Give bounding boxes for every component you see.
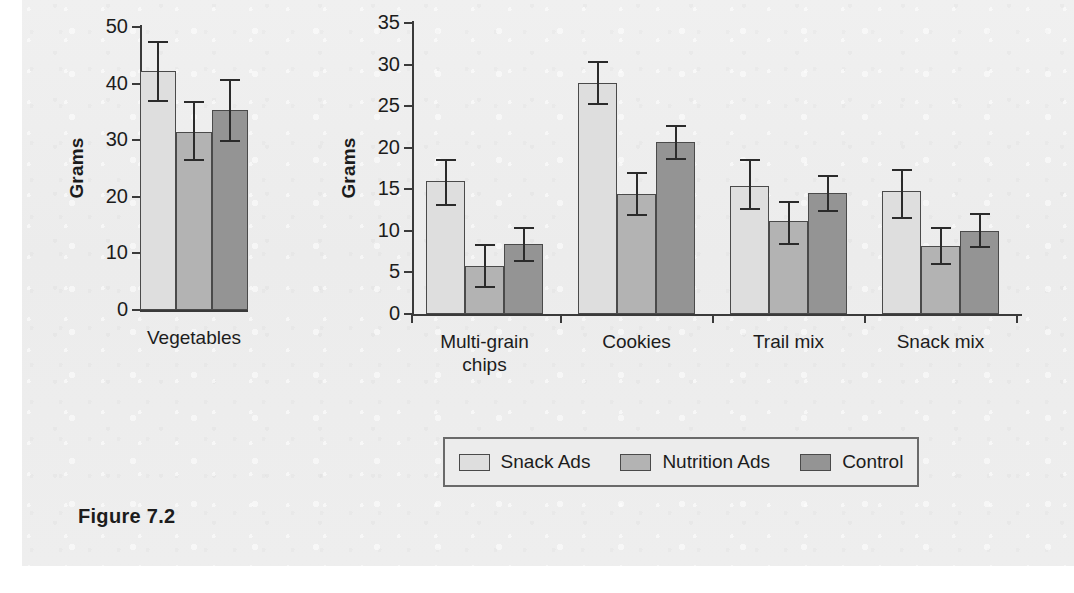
y-tick-label: 10 (78, 242, 128, 262)
error-bar-cap-top (514, 227, 534, 229)
error-bar-cap-top (779, 201, 799, 203)
legend-label-control: Control (842, 451, 903, 473)
error-bar-cap-bottom (818, 210, 838, 212)
error-bar-cap-bottom (666, 158, 686, 160)
error-bar-stem (979, 214, 981, 247)
x-category-label: Cookies (557, 330, 717, 353)
y-tick-label: 50 (78, 16, 128, 36)
error-bar-cap-bottom (970, 246, 990, 248)
right-y-axis-line (412, 21, 414, 314)
y-tick-label: 30 (350, 54, 400, 74)
error-bar-cap-top (666, 125, 686, 127)
bar-snack-ads (578, 83, 617, 314)
y-tick-label: 10 (350, 220, 400, 240)
error-bar-cap-top (970, 213, 990, 215)
right-y-axis-title: Grams (338, 113, 360, 223)
error-bar-cap-top (818, 175, 838, 177)
y-tick-label: 35 (350, 12, 400, 32)
error-bar-cap-top (931, 227, 951, 229)
legend-swatch-control (800, 454, 831, 471)
error-bar-cap-top (892, 169, 912, 171)
chart-snack-foods: Grams 05101520253035 Multi-grain chipsCo… (322, 0, 1062, 420)
error-bar-stem (157, 42, 159, 101)
x-tick-mark (411, 314, 413, 323)
chart-vegetables: Grams 01020304050 Vegetables (36, 0, 336, 420)
error-bar-stem (445, 160, 447, 205)
bar-snack-ads (140, 71, 176, 310)
error-bar-cap-bottom (220, 140, 240, 142)
error-bar-stem (940, 228, 942, 265)
figure-panel: Grams 01020304050 Vegetables Grams 05101… (22, 0, 1074, 566)
y-tick-label: 20 (78, 186, 128, 206)
error-bar-cap-top (740, 159, 760, 161)
x-category-label: Vegetables (114, 326, 274, 349)
error-bar-cap-bottom (475, 286, 495, 288)
error-bar-cap-top (627, 172, 647, 174)
error-bar-cap-bottom (184, 159, 204, 161)
x-category-label: Snack mix (861, 330, 1021, 353)
error-bar-stem (597, 62, 599, 104)
x-tick-mark (1016, 314, 1018, 323)
error-bar-cap-top (588, 61, 608, 63)
error-bar-stem (675, 126, 677, 158)
error-bar-stem (229, 80, 231, 141)
legend-swatch-snack-ads (459, 454, 490, 471)
y-tick-label: 25 (350, 95, 400, 115)
legend-item-control: Control (800, 451, 903, 473)
error-bar-cap-top (436, 159, 456, 161)
bar-control (656, 142, 695, 314)
y-tick-label: 0 (78, 299, 128, 319)
error-bar-cap-bottom (740, 208, 760, 210)
error-bar-stem (827, 176, 829, 211)
error-bar-cap-bottom (514, 260, 534, 262)
error-bar-stem (523, 228, 525, 260)
error-bar-stem (484, 245, 486, 287)
legend-label-nutrition-ads: Nutrition Ads (662, 451, 770, 473)
error-bar-cap-bottom (627, 214, 647, 216)
error-bar-cap-bottom (148, 100, 168, 102)
x-tick-mark (864, 314, 866, 323)
x-category-label: Trail mix (709, 330, 869, 353)
x-tick-mark (712, 314, 714, 323)
left-x-axis-line (140, 310, 248, 312)
error-bar-stem (788, 202, 790, 244)
legend-item-snack-ads: Snack Ads (459, 451, 591, 473)
y-tick-label: 20 (350, 137, 400, 157)
error-bar-cap-bottom (588, 103, 608, 105)
legend-swatch-nutrition-ads (620, 454, 651, 471)
error-bar-cap-bottom (436, 204, 456, 206)
x-tick-mark (560, 314, 562, 323)
y-tick-label: 0 (350, 303, 400, 323)
error-bar-cap-bottom (931, 263, 951, 265)
chart-legend: Snack Ads Nutrition Ads Control (443, 437, 919, 487)
error-bar-cap-top (220, 79, 240, 81)
y-tick-label: 30 (78, 129, 128, 149)
error-bar-stem (636, 173, 638, 215)
error-bar-cap-top (148, 41, 168, 43)
x-category-label: Multi-grain chips (405, 330, 565, 376)
error-bar-cap-top (184, 101, 204, 103)
error-bar-cap-bottom (779, 243, 799, 245)
error-bar-cap-bottom (892, 217, 912, 219)
y-tick-label: 5 (350, 261, 400, 281)
y-tick-label: 40 (78, 73, 128, 93)
figure-page: Grams 01020304050 Vegetables Grams 05101… (0, 0, 1074, 593)
error-bar-stem (193, 102, 195, 160)
error-bar-stem (901, 170, 903, 217)
right-x-axis-line (412, 314, 1022, 316)
legend-label-snack-ads: Snack Ads (501, 451, 591, 473)
y-tick-label: 15 (350, 178, 400, 198)
error-bar-cap-top (475, 244, 495, 246)
legend-item-nutrition-ads: Nutrition Ads (620, 451, 770, 473)
figure-caption: Figure 7.2 (78, 505, 175, 528)
error-bar-stem (749, 160, 751, 209)
